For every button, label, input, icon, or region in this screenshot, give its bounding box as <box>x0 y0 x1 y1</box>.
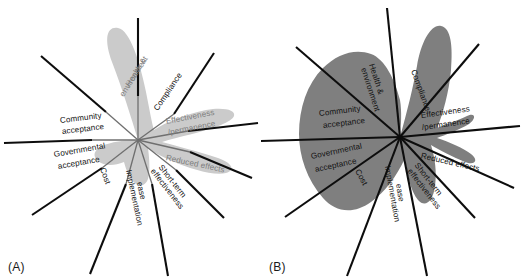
axis-a-compliance <box>174 53 214 114</box>
label-a-cost: Cost <box>98 166 113 186</box>
panel-b: Health & environment Compliance Effectiv… <box>261 0 522 280</box>
axis-a-upper-left <box>41 56 106 112</box>
panel-a-chart: Health & environment Compliance Effectiv… <box>0 0 261 280</box>
axis-a-governmental-acceptance <box>32 168 102 215</box>
figure-root: Health & environment Compliance Effectiv… <box>0 0 522 280</box>
panel-a: Health & environment Compliance Effectiv… <box>0 0 261 280</box>
panel-b-caption: (B) <box>269 260 286 274</box>
panel-a-caption: (A) <box>8 260 25 274</box>
axis-a-implementation-ease <box>152 184 168 276</box>
axis-a-cost <box>90 184 126 274</box>
axis-a-community-acceptance <box>4 140 92 143</box>
panel-b-chart: Health & environment Compliance Effectiv… <box>261 0 522 280</box>
